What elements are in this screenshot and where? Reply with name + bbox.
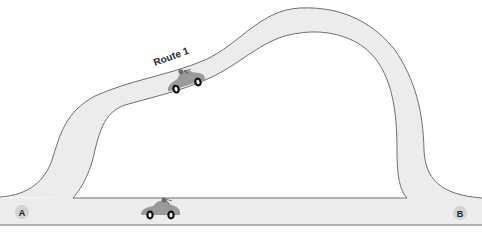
point-a-label: A: [19, 208, 26, 218]
point-b-label: B: [457, 209, 464, 219]
straight-road: [0, 198, 482, 225]
point-b-marker: B: [453, 206, 467, 220]
point-a-marker: A: [15, 205, 29, 219]
route-diagram: Route 1 A B: [0, 0, 482, 235]
route-1-label: Route 1: [152, 45, 191, 68]
